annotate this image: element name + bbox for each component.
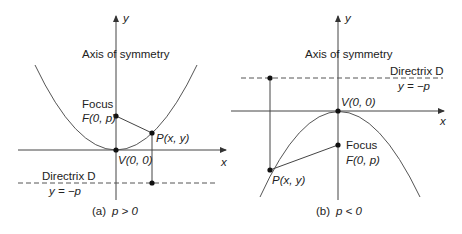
point-label: P(x, y) bbox=[156, 132, 189, 144]
axis-of-symmetry-label: Axis of symmetry bbox=[305, 48, 393, 60]
directrix-dot bbox=[149, 180, 154, 185]
x-axis-label: x bbox=[439, 115, 447, 127]
focus-coords-label: F(0, p) bbox=[82, 112, 116, 124]
focus-to-point-segment bbox=[270, 145, 338, 170]
focus-label: Focus bbox=[346, 139, 378, 151]
panel-b: y x Axis of symmetry Directrix D y = −p … bbox=[231, 12, 447, 217]
caption-prefix: (a) bbox=[92, 205, 106, 217]
parabola-diagrams: y x Axis of symmetry Focus F(0, p) P(x, … bbox=[0, 0, 462, 234]
axis-of-symmetry-label: Axis of symmetry bbox=[82, 48, 170, 60]
point-label: P(x, y) bbox=[272, 174, 305, 186]
directrix-label: Directrix D bbox=[390, 65, 444, 77]
directrix-label: Directrix D bbox=[42, 170, 96, 182]
caption-prefix: (b) bbox=[316, 205, 330, 217]
caption-condition: p > 0 bbox=[111, 205, 139, 217]
panel-a: y x Axis of symmetry Focus F(0, p) P(x, … bbox=[18, 12, 228, 217]
directrix-dot bbox=[267, 75, 272, 80]
vertex-dot bbox=[113, 147, 118, 152]
directrix-equation: y = −p bbox=[397, 80, 431, 92]
vertex-label: V(0, 0) bbox=[118, 154, 153, 166]
vertex-label: V(0, 0) bbox=[341, 96, 376, 108]
focus-dot bbox=[335, 142, 340, 147]
point-dot bbox=[267, 167, 272, 172]
focus-label: Focus bbox=[82, 98, 114, 110]
point-dot bbox=[149, 130, 154, 135]
focus-coords-label: F(0, p) bbox=[346, 154, 380, 166]
directrix-equation: y = −p bbox=[48, 185, 82, 197]
y-axis-label: y bbox=[344, 12, 352, 24]
y-axis-label: y bbox=[122, 12, 130, 24]
focus-to-point-segment bbox=[116, 116, 152, 133]
x-axis-label: x bbox=[220, 156, 228, 168]
vertex-dot bbox=[335, 108, 340, 113]
caption-condition: p < 0 bbox=[335, 205, 363, 217]
